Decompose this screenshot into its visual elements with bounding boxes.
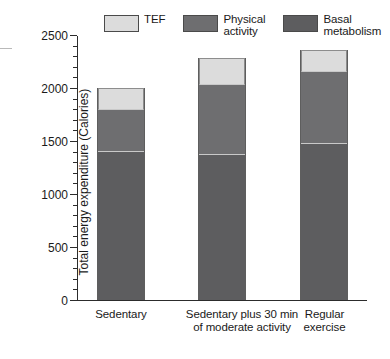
bar-segment-tef bbox=[199, 58, 245, 85]
y-tick-major bbox=[70, 300, 77, 301]
y-axis-title: Total energy expenditure (Calories) bbox=[78, 32, 90, 332]
y-tick-minor bbox=[73, 67, 77, 68]
legend-item-tef: TEF bbox=[104, 14, 165, 32]
bar-segment-basal-metabolism bbox=[98, 152, 144, 300]
bar-3 bbox=[300, 50, 348, 300]
bar-2 bbox=[198, 58, 246, 300]
y-tick-label: 0 bbox=[61, 295, 68, 307]
y-tick-minor bbox=[73, 77, 77, 78]
bar-segment-tef bbox=[301, 50, 347, 72]
legend-swatch-physical-activity bbox=[183, 15, 218, 32]
legend-label-basal-metabolism: Basal metabolism bbox=[323, 14, 381, 37]
y-tick-major bbox=[70, 194, 77, 195]
y-tick-label: 500 bbox=[48, 242, 68, 254]
x-axis-label-3: Regular exercise bbox=[262, 308, 387, 334]
y-tick-label: 1000 bbox=[41, 189, 68, 201]
bar-segment-physical-activity bbox=[199, 85, 245, 155]
legend-swatch-tef bbox=[104, 15, 139, 32]
y-tick-label: 2500 bbox=[41, 30, 68, 42]
bar-segment-basal-metabolism bbox=[199, 155, 245, 300]
bar-segment-tef bbox=[98, 88, 144, 110]
y-tick-minor bbox=[73, 46, 77, 47]
y-tick-minor bbox=[73, 56, 77, 57]
energy-expenditure-chart: TEF Physical activity Basal metabolism 0… bbox=[0, 0, 390, 359]
y-tick-minor bbox=[73, 289, 77, 290]
y-tick-label: 2000 bbox=[41, 83, 68, 95]
x-axis-line bbox=[77, 300, 367, 301]
scan-artifact bbox=[0, 48, 12, 49]
bar-1 bbox=[97, 88, 145, 300]
y-tick-minor bbox=[73, 279, 77, 280]
y-tick-label: 1500 bbox=[41, 136, 68, 148]
bar-segment-physical-activity bbox=[98, 110, 144, 151]
plot-area: 05001000150020002500 Total energy expend… bbox=[77, 36, 367, 301]
y-tick-major bbox=[70, 35, 77, 36]
y-tick-major bbox=[70, 247, 77, 248]
legend-label-physical-activity: Physical activity bbox=[223, 14, 265, 37]
legend-item-basal-metabolism: Basal metabolism bbox=[283, 14, 381, 37]
legend-label-tef: TEF bbox=[144, 14, 165, 26]
bar-segment-basal-metabolism bbox=[301, 144, 347, 300]
legend-item-physical-activity: Physical activity bbox=[183, 14, 265, 37]
y-tick-major bbox=[70, 88, 77, 89]
y-tick-major bbox=[70, 141, 77, 142]
legend-swatch-basal-metabolism bbox=[283, 15, 318, 32]
bar-segment-physical-activity bbox=[301, 72, 347, 144]
